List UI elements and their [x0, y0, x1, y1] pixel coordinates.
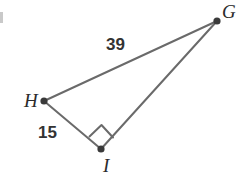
- side-length-label-hg: 39: [106, 36, 125, 53]
- side-length-label-hi: 15: [38, 124, 57, 141]
- vertex-dot-h: [40, 97, 47, 104]
- vertex-label-g: G: [222, 2, 236, 21]
- vertex-dot-i: [97, 145, 104, 152]
- geometry-figure-canvas: G H I 39 15: [0, 0, 241, 173]
- vertex-dot-g: [213, 17, 220, 24]
- vertex-label-h: H: [24, 91, 38, 110]
- vertex-label-i: I: [103, 156, 109, 173]
- triangle-drawing: [0, 0, 241, 173]
- segment-hg: [44, 21, 217, 101]
- right-angle-marker-icon: [90, 125, 114, 138]
